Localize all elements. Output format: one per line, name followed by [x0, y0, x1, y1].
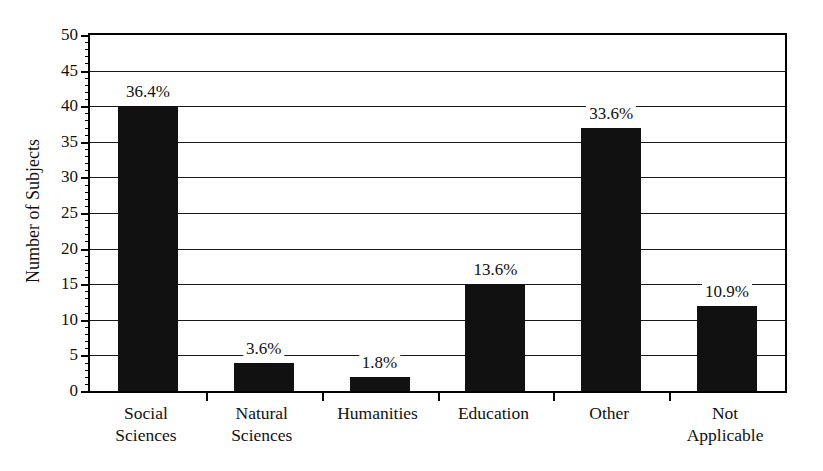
y-axis-tick-label: 40	[44, 96, 78, 116]
bar	[350, 377, 410, 391]
x-axis-tick-label: NaturalSciences	[231, 402, 292, 446]
x-axis-tick-label: Humanities	[337, 402, 418, 424]
y-axis-tick-label: 25	[44, 203, 78, 223]
x-axis-tick-label: Education	[458, 402, 529, 424]
gridline	[90, 249, 785, 250]
bar-chart-figure: Number of Subjects 051015202530354045503…	[0, 0, 823, 471]
x-axis-tick-label-line2: Applicable	[687, 424, 764, 446]
y-axis-tick-label: 20	[44, 239, 78, 259]
bar	[118, 106, 178, 391]
y-axis-major-tick	[81, 355, 90, 357]
y-axis-minor-tick	[85, 120, 90, 121]
y-axis-minor-tick	[85, 313, 90, 314]
y-axis-major-tick	[81, 35, 90, 37]
y-axis-major-tick	[81, 142, 90, 144]
y-axis-major-tick	[81, 391, 90, 393]
y-axis-major-tick	[81, 249, 90, 251]
gridline	[90, 284, 785, 285]
y-axis-minor-tick	[85, 185, 90, 186]
bar-data-label: 10.9%	[702, 282, 752, 302]
x-axis-tick-label-line1: Not	[712, 403, 738, 423]
y-axis-minor-tick	[85, 49, 90, 50]
y-axis-minor-tick	[85, 42, 90, 43]
y-axis-minor-tick	[85, 128, 90, 129]
y-axis-minor-tick	[85, 306, 90, 307]
y-axis-minor-tick	[85, 327, 90, 328]
y-axis-minor-tick	[85, 99, 90, 100]
x-axis-category-separator	[669, 391, 671, 401]
x-axis-category-separator	[553, 391, 555, 401]
y-axis-tick-label: 30	[44, 167, 78, 187]
bar	[465, 284, 525, 391]
y-axis-minor-tick	[85, 227, 90, 228]
y-axis-minor-tick	[85, 256, 90, 257]
gridline	[90, 355, 785, 356]
y-axis-minor-tick	[85, 135, 90, 136]
y-axis-major-tick	[81, 284, 90, 286]
gridline	[90, 213, 785, 214]
y-axis-minor-tick	[85, 384, 90, 385]
y-axis-minor-tick	[85, 341, 90, 342]
y-axis-minor-tick	[85, 56, 90, 57]
y-axis-minor-tick	[85, 113, 90, 114]
y-axis-minor-tick	[85, 206, 90, 207]
y-axis-minor-tick	[85, 63, 90, 64]
x-axis-tick-label: SocialSciences	[115, 402, 176, 446]
y-axis-major-tick	[81, 213, 90, 215]
x-axis-category-separator	[206, 391, 208, 401]
gridline	[90, 142, 785, 143]
x-axis-tick-label-line2: Sciences	[115, 424, 176, 446]
gridline	[90, 177, 785, 178]
y-axis-minor-tick	[85, 263, 90, 264]
y-axis-tick-label: 50	[44, 25, 78, 45]
y-axis-minor-tick	[85, 298, 90, 299]
y-axis-major-tick	[81, 320, 90, 322]
y-axis-minor-tick	[85, 220, 90, 221]
x-axis-tick-label-line1: Social	[124, 403, 168, 423]
y-axis-minor-tick	[85, 199, 90, 200]
y-axis-minor-tick	[85, 149, 90, 150]
y-axis-minor-tick	[85, 241, 90, 242]
y-axis-minor-tick	[85, 291, 90, 292]
y-axis-major-tick	[81, 106, 90, 108]
x-axis-tick-label-line1: Education	[458, 403, 529, 423]
y-axis-minor-tick	[85, 170, 90, 171]
bar-data-label: 36.4%	[123, 82, 173, 102]
y-axis-minor-tick	[85, 163, 90, 164]
bar	[234, 363, 294, 391]
x-axis-category-separator	[438, 391, 440, 401]
y-axis-minor-tick	[85, 377, 90, 378]
x-axis-tick-label: Other	[589, 402, 629, 424]
y-axis-minor-tick	[85, 348, 90, 349]
y-axis-minor-tick	[85, 363, 90, 364]
y-axis-major-tick	[81, 71, 90, 73]
bar-data-label: 33.6%	[586, 104, 636, 124]
y-axis-minor-tick	[85, 234, 90, 235]
y-axis-tick-label: 10	[44, 310, 78, 330]
y-axis-minor-tick	[85, 156, 90, 157]
x-axis-category-separator	[322, 391, 324, 401]
bar-data-label: 1.8%	[359, 353, 400, 373]
y-axis-minor-tick	[85, 370, 90, 371]
y-axis-minor-tick	[85, 92, 90, 93]
x-axis-tick-label-line1: Natural	[236, 403, 288, 423]
y-axis-minor-tick	[85, 192, 90, 193]
gridline	[90, 71, 785, 72]
x-axis-tick-label: NotApplicable	[687, 402, 764, 446]
plot-area: 0510152025303540455036.4%3.6%1.8%13.6%33…	[88, 33, 787, 393]
bar	[581, 128, 641, 391]
bar-data-label: 13.6%	[470, 260, 520, 280]
y-axis-minor-tick	[85, 85, 90, 86]
y-axis-tick-label: 0	[44, 381, 78, 401]
y-axis-minor-tick	[85, 78, 90, 79]
bar-data-label: 3.6%	[243, 339, 284, 359]
x-axis-tick-label-line1: Humanities	[337, 403, 418, 423]
y-axis-tick-label: 45	[44, 61, 78, 81]
bar	[697, 306, 757, 391]
y-axis-tick-label: 35	[44, 132, 78, 152]
gridline	[90, 320, 785, 321]
gridline	[90, 106, 785, 107]
x-axis-tick-label-line2: Sciences	[231, 424, 292, 446]
y-axis-major-tick	[81, 177, 90, 179]
y-axis-minor-tick	[85, 334, 90, 335]
